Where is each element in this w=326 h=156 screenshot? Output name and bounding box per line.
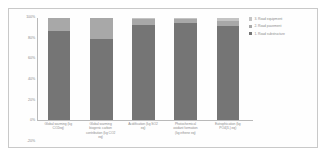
bar-segment[interactable] bbox=[48, 31, 70, 120]
bar-column[interactable] bbox=[213, 18, 243, 120]
legend-item[interactable]: 1. Road substructure bbox=[249, 32, 313, 36]
y-axis-tick-label: 80% bbox=[28, 36, 35, 40]
x-axis: Global warming (kg CO2eq)Global warming … bbox=[37, 122, 249, 148]
legend-label: 2. Road pavement bbox=[254, 24, 281, 28]
y-axis-tick-label: 60% bbox=[28, 56, 35, 60]
legend-swatch-icon bbox=[249, 32, 252, 35]
y-axis-tick-label: 0% bbox=[30, 118, 35, 122]
bar-column[interactable] bbox=[129, 18, 159, 120]
legend-item[interactable]: 3. Road equipment bbox=[249, 17, 313, 21]
chart-container: 100%80%60%40%20%0%-20% Global warming (k… bbox=[8, 8, 318, 148]
bar-stack[interactable] bbox=[217, 18, 239, 120]
chart-legend: 3. Road equipment2. Road pavement1. Road… bbox=[249, 17, 313, 39]
bar-group bbox=[38, 18, 249, 120]
legend-swatch-icon bbox=[249, 25, 252, 28]
y-axis: 100%80%60%40%20%0%-20% bbox=[13, 17, 35, 141]
bar-column[interactable] bbox=[171, 18, 201, 120]
bar-column[interactable] bbox=[44, 18, 74, 120]
y-axis-tick-label: 100% bbox=[26, 15, 35, 19]
x-axis-category-label: Global warming biogenic carbon contribut… bbox=[86, 122, 116, 148]
plot-area bbox=[37, 18, 249, 120]
y-axis-tick-label: 40% bbox=[28, 77, 35, 81]
bar-segment[interactable] bbox=[90, 39, 112, 120]
bar-segment[interactable] bbox=[48, 18, 70, 31]
y-axis-tick-label: -20% bbox=[27, 139, 35, 143]
bar-segment[interactable] bbox=[174, 23, 196, 120]
x-axis-category-label: Global warming (kg CO2eq) bbox=[43, 122, 73, 148]
plot-wrapper: 100%80%60%40%20%0%-20% Global warming (k… bbox=[9, 9, 317, 147]
legend-label: 1. Road substructure bbox=[254, 32, 284, 36]
bar-segment[interactable] bbox=[90, 18, 112, 39]
x-axis-line bbox=[37, 120, 253, 121]
legend-label: 3. Road equipment bbox=[254, 17, 282, 21]
bar-stack[interactable] bbox=[90, 18, 112, 120]
bar-segment[interactable] bbox=[217, 26, 239, 120]
x-axis-category-label: Eutrophication (kg PO4(3-) eq) bbox=[213, 122, 243, 148]
bar-stack[interactable] bbox=[174, 18, 196, 120]
bar-stack[interactable] bbox=[48, 18, 70, 120]
legend-item[interactable]: 2. Road pavement bbox=[249, 24, 313, 28]
legend-swatch-icon bbox=[249, 17, 252, 20]
bar-segment[interactable] bbox=[132, 25, 154, 120]
x-axis-category-label: Photochemical oxidant formation (kg ethe… bbox=[171, 122, 201, 148]
y-axis-tick-label: 20% bbox=[28, 98, 35, 102]
bar-column[interactable] bbox=[87, 18, 117, 120]
x-axis-category-label: Acidification (kg SO2 eq) bbox=[128, 122, 158, 148]
bar-stack[interactable] bbox=[132, 18, 154, 120]
